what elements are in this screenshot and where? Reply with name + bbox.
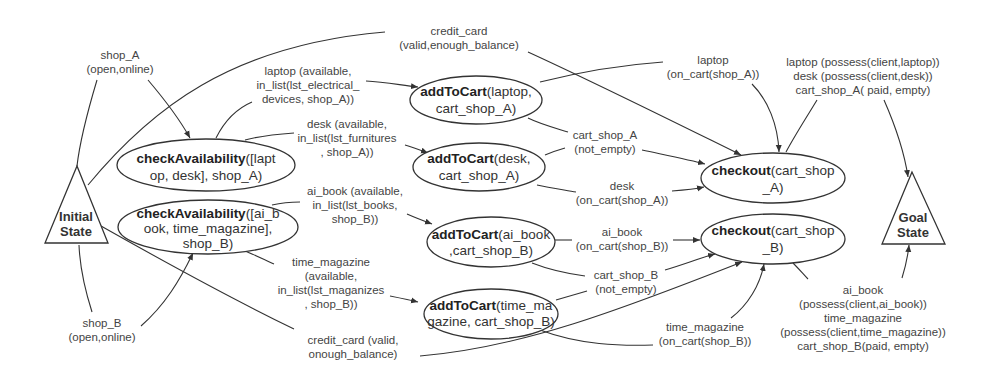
edge-magazine-addmagazine xyxy=(390,296,418,302)
edge-checkB-magazine xyxy=(245,251,274,264)
svg-text:ai_book: ai_book xyxy=(843,284,884,296)
initial-state-line2: State xyxy=(60,224,92,239)
goal-state[interactable]: Goal State xyxy=(882,172,945,244)
edge-addmagazine-magazinecart xyxy=(540,330,653,345)
action-args: (desk, xyxy=(494,151,531,166)
action-checkout-a[interactable]: checkout(cart_shop _A) xyxy=(701,153,845,203)
edge-addlaptop-laptopcart xyxy=(540,62,663,82)
svg-text:(not_empty): (not_empty) xyxy=(574,143,636,155)
edge-label-cart-b-not-empty: cart_shop_B (not_empty) xyxy=(594,269,659,295)
edge-label-goal-b-effects: ai_book (possess(client,ai_book)) time_m… xyxy=(780,284,946,352)
action-name: checkAvailability xyxy=(137,206,247,221)
action-args-line2: _B) xyxy=(761,240,783,255)
edge-label-desk-on-cart: desk (on_cart(shop_A)) xyxy=(576,180,669,206)
action-name: checkAvailability xyxy=(136,151,246,166)
edge-label-goal-a-effects: laptop (possess(client,laptop)) desk (po… xyxy=(786,56,940,96)
action-add-to-cart-magazine[interactable]: addToCart(time_ma gazine, cart_shop_B) xyxy=(424,289,558,339)
action-args-line2: _A) xyxy=(761,180,783,195)
action-args-line2: ook, time_magazine], xyxy=(144,221,272,236)
action-add-to-cart-laptop[interactable]: addToCart(laptop, cart_shop_A) xyxy=(410,76,542,124)
svg-text:(possess(client,time_magazine): (possess(client,time_magazine)) xyxy=(780,326,946,338)
svg-text:checkAvailability([lapt: checkAvailability([lapt xyxy=(136,151,275,166)
goal-state-line2: State xyxy=(897,225,929,240)
edge-label-aibook-on-cart: ai_book (on_cart(shop_B)) xyxy=(576,226,669,252)
svg-text:shop_B)): shop_B)) xyxy=(332,213,379,225)
svg-text:(on_cart(shop_B)): (on_cart(shop_B)) xyxy=(576,240,669,252)
svg-text:in_list(lst_books,: in_list(lst_books, xyxy=(312,199,397,211)
edge-label-credit-card-top: credit_card (valid,enough_balance) xyxy=(399,25,519,51)
edge-checkoutA-goalA xyxy=(786,100,817,152)
edge-label-cart-a-not-empty: cart_shop_A (not_empty) xyxy=(573,129,638,155)
svg-text:desk (possess(client,desk)): desk (possess(client,desk)) xyxy=(793,70,932,82)
action-add-to-cart-desk[interactable]: addToCart(desk, cart_shop_A) xyxy=(413,143,545,191)
action-checkout-b[interactable]: checkout(cart_shop _B) xyxy=(701,214,845,264)
edge-laptopcart-checkoutA xyxy=(752,84,779,152)
edge-laptop-addlaptop xyxy=(366,81,418,87)
edge-label-magazine-available: time_magazine (available, in_list(lst_ma… xyxy=(278,256,385,310)
svg-text:(open,online): (open,online) xyxy=(68,331,135,343)
svg-text:(valid,enough_balance): (valid,enough_balance) xyxy=(399,39,519,51)
svg-text:desk: desk xyxy=(610,180,635,192)
action-name: addToCart xyxy=(420,84,487,99)
edge-checkoutB-goalB xyxy=(793,263,808,279)
svg-text:checkout(cart_shop: checkout(cart_shop xyxy=(711,163,834,178)
svg-text:(available,: (available, xyxy=(305,270,357,282)
svg-text:(not_empty): (not_empty) xyxy=(595,283,657,295)
edge-shopB-checkB xyxy=(141,253,193,326)
action-args: (ai_book xyxy=(498,227,550,242)
action-args-line2: ,cart_shop_B) xyxy=(449,243,533,258)
edge-magazinecart-checkoutB xyxy=(731,264,764,318)
action-args-line2: cart_shop_A) xyxy=(436,101,516,116)
svg-text:credit_card: credit_card xyxy=(431,25,488,37)
action-args: (cart_shop xyxy=(771,163,835,178)
svg-text:, shop_A)): , shop_A)) xyxy=(320,146,373,158)
svg-text:(possess(client,ai_book)): (possess(client,ai_book)) xyxy=(799,298,927,310)
edge-checkA-laptop xyxy=(216,102,252,138)
svg-text:time_magazine: time_magazine xyxy=(292,256,370,268)
edge-label-desk-available: desk (available, in_list(lst_furnitures … xyxy=(297,118,396,158)
goal-state-line1: Goal xyxy=(899,210,928,225)
svg-text:shop_B: shop_B xyxy=(82,317,121,329)
edge-adddesk-cartA xyxy=(545,148,565,155)
edge-deskcart-checkoutA xyxy=(672,187,704,191)
svg-text:ai_book: ai_book xyxy=(602,226,643,238)
svg-text:devices, shop_A)): devices, shop_A)) xyxy=(262,93,354,105)
svg-text:(on_cart(shop_A)): (on_cart(shop_A)) xyxy=(667,68,760,80)
svg-text:onough_balance): onough_balance) xyxy=(309,348,398,360)
edge-addmagazine-cartB xyxy=(556,291,587,300)
svg-text:laptop (possess(client,laptop): laptop (possess(client,laptop)) xyxy=(786,56,940,68)
action-args-line2: op, desk], shop_A) xyxy=(150,168,263,183)
edge-label-shop-a: shop_A (open,online) xyxy=(86,49,153,75)
action-args: (cart_shop xyxy=(771,223,835,238)
svg-text:laptop (available,: laptop (available, xyxy=(265,65,352,77)
svg-text:laptop: laptop xyxy=(697,54,728,66)
edge-initial-shopB xyxy=(79,245,92,312)
action-args: (time_ma xyxy=(496,298,553,313)
svg-text:(on_cart(shop_B)): (on_cart(shop_B)) xyxy=(659,335,752,347)
action-args-line3: shop_B) xyxy=(183,236,233,251)
edge-label-shop-b: shop_B (open,online) xyxy=(68,317,135,343)
svg-text:ai_book (available,: ai_book (available, xyxy=(307,185,403,197)
svg-text:cart_shop_B: cart_shop_B xyxy=(594,269,659,281)
edge-addaibook-cartB xyxy=(532,263,585,276)
edge-checkB-aibook xyxy=(272,202,300,205)
svg-text:cart_shop_B(paid, empty): cart_shop_B(paid, empty) xyxy=(797,340,929,352)
initial-state-line1: Initial xyxy=(59,209,93,224)
svg-text:, shop_B)): , shop_B)) xyxy=(304,298,357,310)
action-name: addToCart xyxy=(427,151,494,166)
edge-cartA-checkoutA xyxy=(642,150,705,164)
svg-text:(open,online): (open,online) xyxy=(86,63,153,75)
svg-text:cart_shop_A( paid, empty): cart_shop_A( paid, empty) xyxy=(796,84,931,96)
svg-text:cart_shop_A: cart_shop_A xyxy=(573,129,638,141)
action-name: addToCart xyxy=(430,298,497,313)
svg-text:time_magazine: time_magazine xyxy=(666,321,744,333)
action-add-to-cart-aibook[interactable]: addToCart(ai_book ,cart_shop_B) xyxy=(427,217,555,267)
edge-checkA-desk xyxy=(245,133,294,140)
svg-text:addToCart(time_ma: addToCart(time_ma xyxy=(430,298,553,313)
svg-text:addToCart(desk,: addToCart(desk, xyxy=(427,151,530,166)
svg-text:checkout(cart_shop: checkout(cart_shop xyxy=(711,223,834,238)
action-check-availability-b[interactable]: checkAvailability([ai_b ook, time_magazi… xyxy=(118,200,298,254)
edge-goalB-goal xyxy=(902,245,909,278)
action-check-availability-a[interactable]: checkAvailability([lapt op, desk], shop_… xyxy=(117,139,295,191)
initial-state[interactable]: Initial State xyxy=(45,166,108,243)
